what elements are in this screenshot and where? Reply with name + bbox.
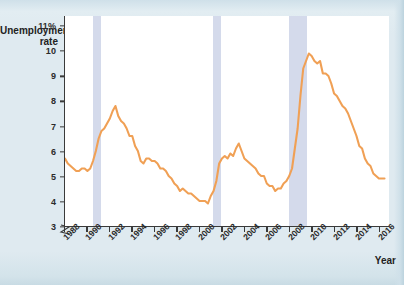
y-tick-label-3: 8 xyxy=(51,96,56,106)
y-tick-mark-5 xyxy=(60,151,65,152)
x-axis-title: Year xyxy=(375,255,396,266)
y-tick-label-7: 4 xyxy=(51,197,56,207)
plot-area xyxy=(64,16,389,227)
y-tick-mark-2 xyxy=(60,76,65,77)
y-tick-mark-4 xyxy=(60,126,65,127)
y-tick-mark-7 xyxy=(60,201,65,202)
y-tick-label-4: 7 xyxy=(51,122,56,132)
y-tick-label-6: 5 xyxy=(51,172,56,182)
y-tick-label-0: 11% xyxy=(38,21,56,31)
y-tick-label-1: 10 xyxy=(46,46,56,56)
y-tick-label-2: 9 xyxy=(51,71,56,81)
y-tick-label-5: 6 xyxy=(51,147,56,157)
unemployment-line-series xyxy=(65,16,389,226)
plot-inner xyxy=(65,16,389,226)
y-tick-label-8: 3 xyxy=(51,222,56,232)
chart-page: Unemployment rate 11%109876543 198819901… xyxy=(0,0,404,285)
y-tick-mark-3 xyxy=(60,101,65,102)
y-axis-title-line2: rate xyxy=(40,36,58,47)
y-tick-mark-0 xyxy=(60,25,65,26)
y-tick-mark-1 xyxy=(60,51,65,52)
y-tick-mark-6 xyxy=(60,176,65,177)
